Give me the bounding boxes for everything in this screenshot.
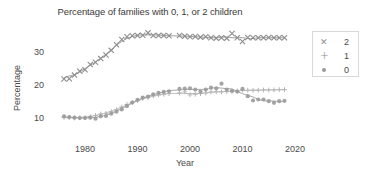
legend-item-2[interactable]: ✕ 2 — [313, 35, 358, 49]
data-point — [167, 89, 171, 93]
data-point — [114, 42, 119, 47]
trend-line-1 — [64, 90, 285, 118]
data-point — [183, 87, 187, 91]
data-point — [125, 104, 129, 108]
x-tick-label: 2020 — [285, 144, 305, 154]
data-point — [130, 100, 134, 104]
data-point — [261, 97, 265, 101]
data-point — [177, 91, 182, 96]
data-point — [261, 88, 266, 93]
data-point — [209, 90, 214, 95]
data-point — [72, 116, 76, 120]
plot-area: 102030 19801990200020102020 Percentage Y… — [0, 0, 367, 182]
chart-figure: Percentage of families with 0, 1, or 2 c… — [0, 0, 367, 182]
dot-marker-icon — [313, 66, 335, 75]
data-point — [198, 90, 202, 94]
data-point — [109, 112, 113, 116]
data-point — [266, 88, 271, 93]
legend-item-1[interactable]: ＋ 1 — [313, 49, 358, 63]
data-point — [246, 94, 250, 98]
y-tick-label: 20 — [34, 80, 44, 90]
y-axis-tick-labels: 102030 — [34, 47, 44, 123]
cross-marker-icon: ✕ — [313, 38, 335, 47]
data-point — [104, 114, 108, 118]
data-point — [251, 88, 256, 93]
data-point — [219, 82, 223, 86]
data-point — [251, 98, 255, 102]
data-point — [109, 48, 114, 53]
data-point — [62, 114, 66, 118]
data-point — [141, 95, 145, 99]
data-point — [256, 97, 260, 101]
data-point — [240, 87, 244, 91]
data-point — [240, 39, 245, 44]
data-point — [88, 116, 92, 120]
x-tick-label: 2010 — [232, 144, 252, 154]
data-point — [193, 88, 197, 92]
data-point — [135, 98, 139, 102]
data-point — [277, 99, 281, 103]
trend-line-2 — [64, 35, 285, 78]
data-point — [224, 36, 229, 41]
data-point — [151, 33, 156, 38]
legend-item-0[interactable]: 0 — [313, 63, 358, 77]
data-point — [209, 86, 213, 90]
series-lines — [64, 35, 285, 118]
data-point — [219, 35, 224, 40]
data-point — [204, 88, 208, 92]
x-tick-label: 1990 — [127, 144, 147, 154]
legend-label-2: 2 — [335, 38, 358, 47]
data-point — [151, 92, 155, 96]
plus-marker-icon: ＋ — [313, 52, 335, 61]
legend-label-0: 0 — [335, 66, 358, 75]
x-axis-title: Year — [176, 158, 194, 168]
data-point — [282, 87, 287, 92]
data-point — [230, 89, 234, 93]
data-point — [229, 31, 234, 36]
data-point — [267, 99, 271, 103]
data-point — [193, 92, 198, 97]
legend: ✕ 2 ＋ 1 0 — [312, 31, 359, 77]
series-markers — [61, 30, 287, 121]
y-tick-label: 10 — [34, 113, 44, 123]
data-point — [93, 117, 97, 121]
data-point — [177, 87, 181, 91]
y-axis-title: Percentage — [12, 65, 22, 111]
data-point — [99, 114, 103, 118]
data-point — [98, 56, 103, 61]
data-point — [256, 88, 261, 93]
data-point — [93, 60, 98, 65]
data-point — [214, 86, 218, 90]
data-point — [235, 90, 239, 94]
data-point — [156, 91, 160, 95]
data-point — [146, 94, 150, 98]
data-point — [225, 88, 229, 92]
data-point — [83, 116, 87, 120]
x-tick-label: 1980 — [75, 144, 95, 154]
data-point — [67, 115, 71, 119]
data-point — [78, 116, 82, 120]
data-point — [272, 88, 277, 93]
data-point — [219, 90, 224, 95]
data-point — [120, 107, 124, 111]
x-tick-label: 2000 — [180, 144, 200, 154]
data-point — [282, 99, 286, 103]
data-point — [162, 90, 166, 94]
data-point — [272, 101, 276, 105]
y-tick-label: 30 — [34, 47, 44, 57]
data-point — [114, 110, 118, 114]
data-point — [245, 88, 250, 93]
data-point — [188, 86, 192, 90]
x-axis-tick-labels: 19801990200020102020 — [75, 144, 305, 154]
data-point — [277, 87, 282, 92]
data-point — [67, 76, 72, 81]
legend-label-1: 1 — [335, 52, 358, 61]
data-point — [245, 35, 250, 40]
trend-line-0 — [64, 88, 285, 118]
